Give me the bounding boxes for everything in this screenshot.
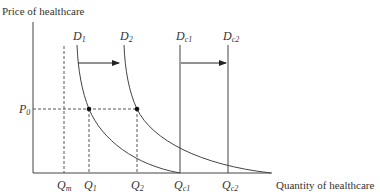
label-q1: Q1 xyxy=(84,178,97,193)
label-d1: D1 xyxy=(72,29,86,44)
point-q1-p0 xyxy=(87,107,92,112)
label-d2: D2 xyxy=(119,29,133,44)
label-dc1: Dc1 xyxy=(175,29,192,44)
x-axis-label: Quantity of healthcare xyxy=(276,179,374,191)
label-qc2: Qc2 xyxy=(222,178,238,193)
label-qm: Qm xyxy=(57,178,72,193)
healthcare-demand-diagram: Price of healthcare Quantity of healthca… xyxy=(0,0,380,195)
y-axis-label: Price of healthcare xyxy=(2,5,85,17)
demand-curve-d2 xyxy=(124,45,271,173)
point-q2-p0 xyxy=(135,107,140,112)
label-dc2: Dc2 xyxy=(222,29,239,44)
label-q2: Q2 xyxy=(131,178,144,193)
label-qc1: Qc1 xyxy=(174,178,190,193)
label-p0: P0 xyxy=(18,102,30,117)
